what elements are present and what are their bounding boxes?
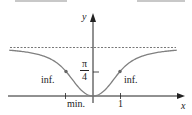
inflection-point-left: [64, 70, 67, 73]
inflection-point-right: [118, 70, 121, 73]
x-tick-label-1: 1: [118, 99, 123, 109]
minimum-label: min.: [67, 99, 85, 109]
x-axis-label: x: [181, 101, 185, 111]
y-axis-arrow-icon: [90, 13, 96, 22]
pi-over-4-label: π 4: [80, 59, 89, 82]
plot-area: [0, 0, 192, 115]
x-axis-arrow-icon: [177, 93, 185, 99]
pi-denominator: 4: [82, 71, 87, 82]
pi-numerator: π: [82, 58, 87, 69]
y-axis-label: y: [82, 12, 86, 22]
inflection-label-right: inf.: [124, 75, 138, 85]
inflection-label-left: inf.: [41, 75, 55, 85]
